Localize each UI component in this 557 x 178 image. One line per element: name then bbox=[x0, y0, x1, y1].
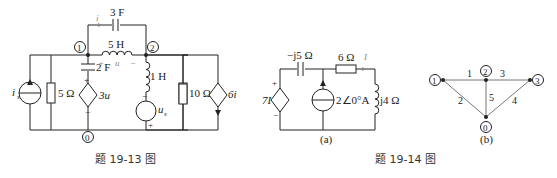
r10-label: 10 Ω bbox=[189, 87, 211, 99]
dep-i-label: 6i bbox=[228, 88, 237, 100]
fig13-right-branches: 10 Ω 6i bbox=[0, 0, 557, 178]
